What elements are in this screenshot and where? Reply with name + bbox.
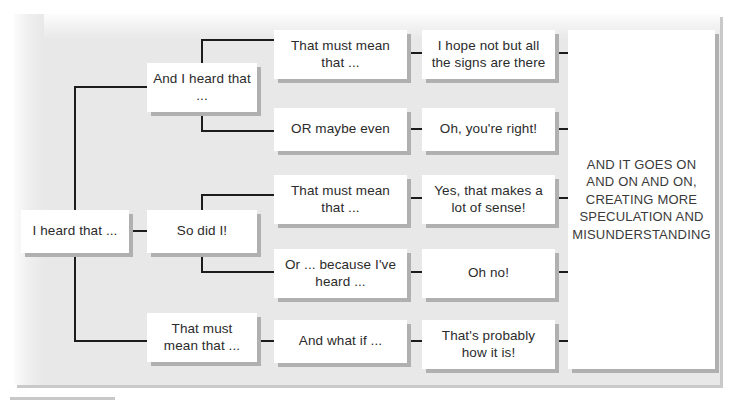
node-oh-youre-right[interactable]: Oh, you're right! — [422, 108, 555, 151]
node-that-must-mean-that-2[interactable]: That must mean that ... — [274, 175, 407, 224]
node-so-did-i[interactable]: So did I! — [147, 210, 257, 253]
node-or-maybe-even[interactable]: OR maybe even — [274, 108, 407, 151]
node-i-hope-not-but-all-the-signs-are-there[interactable]: I hope not but all the signs are there — [422, 30, 555, 79]
node-yes-that-makes-a-lot-of-sense[interactable]: Yes, that makes a lot of sense! — [422, 175, 555, 224]
node-and-what-if[interactable]: And what if ... — [274, 320, 407, 363]
node-thats-probably-how-it-is[interactable]: That's probably how it is! — [422, 320, 555, 369]
node-and-it-goes-on-and-on[interactable]: AND IT GOES ON AND ON AND ON, CREATING M… — [568, 30, 715, 369]
page-rule-artifact — [10, 397, 115, 400]
node-or-because-ive-heard[interactable]: Or ... because I've heard ... — [274, 249, 407, 298]
node-that-must-mean-that-1[interactable]: That must mean that ... — [274, 30, 407, 79]
node-and-i-heard-that[interactable]: And I heard that ... — [147, 63, 257, 112]
node-that-must-mean-that-bottom[interactable]: That must mean that ... — [147, 313, 257, 362]
node-i-heard-that[interactable]: I heard that ... — [21, 210, 129, 253]
node-oh-no[interactable]: Oh no! — [422, 249, 555, 298]
diagram-canvas: I heard that ... And I heard that ... So… — [0, 0, 751, 409]
